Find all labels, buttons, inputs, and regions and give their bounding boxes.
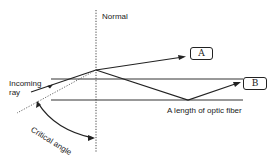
ray-extension (17, 70, 96, 113)
ray-a (96, 57, 183, 70)
ray-b (96, 70, 238, 100)
incoming-label: Incoming (9, 79, 41, 88)
box-a: A (190, 47, 213, 60)
fiber-label: A length of optic fiber (167, 106, 242, 115)
normal-label: Normal (102, 12, 128, 21)
box-b: B (243, 77, 267, 90)
arc-arrow-end-icon (88, 135, 95, 141)
arrow-b-icon (233, 82, 241, 87)
arrow-a-icon (178, 55, 186, 60)
ray-label: ray (9, 88, 20, 97)
